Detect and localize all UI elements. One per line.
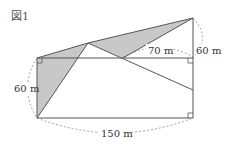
shaded-triangle-top bbox=[88, 18, 193, 58]
label-70m: 70 m bbox=[148, 45, 174, 56]
label-right-60m: 60 m bbox=[196, 45, 222, 56]
label-150m: 150 m bbox=[101, 128, 133, 139]
right-angle-mark-mid-right bbox=[188, 58, 193, 63]
right-angle-mark-bottom-right bbox=[188, 113, 193, 118]
diagram-canvas: 70 m 60 m 60 m 150 m bbox=[0, 0, 227, 154]
label-left-60m: 60 m bbox=[14, 83, 40, 94]
figure-title: 図1 bbox=[11, 7, 29, 23]
geometry-figure: 図1 70 m 60 m 60 m 150 m bbox=[0, 0, 227, 154]
